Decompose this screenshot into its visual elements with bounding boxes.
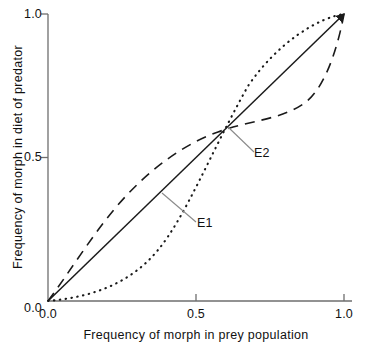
curve-solid-one-to-one bbox=[48, 14, 344, 301]
leader-line-e1 bbox=[162, 193, 196, 222]
plot-area bbox=[0, 0, 369, 348]
chart-figure: 1.0 0.5 0.0 0.0 0.5 1.0 Frequency of mor… bbox=[0, 0, 369, 348]
annotation-label-e2: E2 bbox=[254, 146, 270, 160]
x-axis-title: Frequency of morph in prey population bbox=[48, 328, 344, 342]
leader-line-e2 bbox=[228, 127, 254, 152]
y-axis-title: Frequency of morph in diet of predator bbox=[11, 9, 25, 305]
x-tick-label-min: 0.0 bbox=[34, 307, 62, 321]
x-tick-label-mid: 0.5 bbox=[182, 307, 210, 321]
annotation-label-e1: E1 bbox=[197, 216, 213, 230]
x-tick-label-max: 1.0 bbox=[330, 307, 358, 321]
